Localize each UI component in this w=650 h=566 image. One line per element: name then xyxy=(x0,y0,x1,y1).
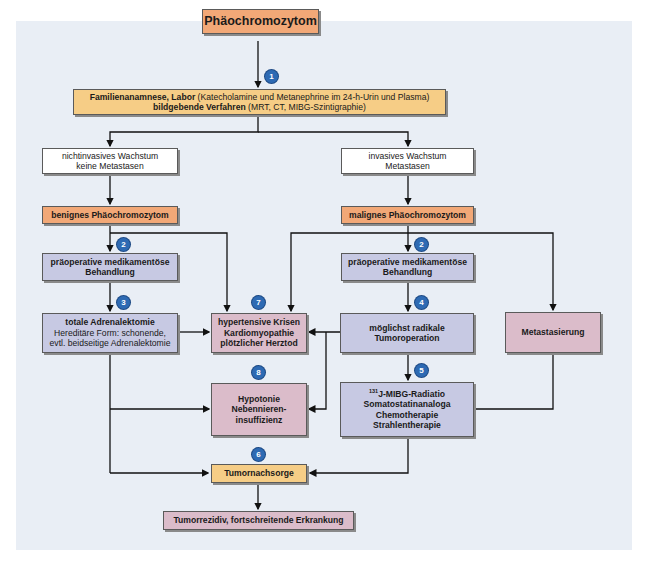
hypotonia-line2: Nebennieren- xyxy=(232,404,287,415)
preop-left-line1: präoperative medikamentöse xyxy=(51,257,170,268)
step-badge-5: 5 xyxy=(415,364,428,377)
node-malignant: malignes Phäochromozytom xyxy=(341,206,474,224)
tumor-op-line2: Tumoroperation xyxy=(374,333,439,344)
node-invasive: invasives Wachstum Metastasen xyxy=(341,148,474,174)
noninvasive-line1: nichtinvasives Wachstum xyxy=(62,151,158,162)
step-badge-3: 3 xyxy=(117,296,130,309)
node-benign: benignes Phäochromozytom xyxy=(42,206,178,224)
diagnostics-rest-2: (MRT, CT, MIBG-Szintigraphie) xyxy=(246,102,366,112)
adrenalectomy-line1: totale Adrenalektomie xyxy=(65,317,154,328)
invasive-line1: invasives Wachstum xyxy=(368,151,446,162)
malignant-label: malignes Phäochromozytom xyxy=(349,210,466,221)
node-preop-right: präoperative medikamentöse Behandlung xyxy=(341,253,474,281)
tumor-op-line1: möglichst radikale xyxy=(369,323,444,334)
preop-right-line2: Behandlung xyxy=(383,267,433,278)
title-text: Phäochromozytom xyxy=(204,16,317,27)
step-badge-2-left: 2 xyxy=(117,238,130,251)
node-diagnostics: Familienanamnese, Labor (Katecholamine u… xyxy=(73,89,446,115)
preop-left-line2: Behandlung xyxy=(85,267,135,278)
invasive-line2: Metastasen xyxy=(385,161,429,172)
therapy-line2: Somatostatinanaloga xyxy=(364,399,451,410)
hypotonia-line1: Hypotonie xyxy=(238,394,280,405)
node-metastasis: Metastasierung xyxy=(505,312,601,353)
crises-line1: hypertensive Krisen xyxy=(218,317,300,328)
step-badge-7: 7 xyxy=(252,296,265,309)
step-badge-1: 1 xyxy=(265,70,278,83)
node-recurrence: Tumorrezidiv, fortschreitende Erkrankung xyxy=(163,511,354,530)
node-preop-left: präoperative medikamentöse Behandlung xyxy=(42,253,178,281)
diagnostics-rest-1: (Katecholamine und Metanephrine im 24-h-… xyxy=(195,92,429,102)
node-noninvasive: nichtinvasives Wachstum keine Metastasen xyxy=(42,148,178,174)
node-adrenalectomy: totale Adrenalektomie Hereditäre Form: s… xyxy=(42,313,178,353)
hypotonia-line3: insuffizienz xyxy=(236,415,283,426)
metastasis-label: Metastasierung xyxy=(521,327,584,338)
therapy-sup: 131 xyxy=(369,388,378,394)
step-badge-6: 6 xyxy=(252,448,265,461)
crises-line2: Kardiomyopathie xyxy=(224,328,294,339)
step-badge-4: 4 xyxy=(415,296,428,309)
preop-right-line1: präoperative medikamentöse xyxy=(348,257,467,268)
diagnostics-bold-2: bildgebende Verfahren xyxy=(153,102,246,112)
adrenalectomy-line3: evtl. beidseitige Adrenalektomie xyxy=(50,338,171,349)
node-followup: Tumornachsorge xyxy=(211,464,307,483)
therapy-line4: Strahlentherapie xyxy=(373,420,441,431)
node-hypotonia: Hypotonie Nebennieren- insuffizienz xyxy=(211,383,307,436)
connector-lines xyxy=(0,0,650,566)
diagnostics-bold-1: Familienanamnese, Labor xyxy=(90,92,196,102)
recurrence-label: Tumorrezidiv, fortschreitende Erkrankung xyxy=(173,515,343,526)
step-badge-2-right: 2 xyxy=(415,238,428,251)
followup-label: Tumornachsorge xyxy=(224,468,294,479)
noninvasive-line2: keine Metastasen xyxy=(76,161,143,172)
node-therapy: 131J-MIBG-Radiatio Somatostatinanaloga C… xyxy=(340,382,474,437)
crises-line3: plötzlicher Herztod xyxy=(220,338,297,349)
benign-label: benignes Phäochromozytom xyxy=(51,210,168,221)
step-badge-8: 8 xyxy=(252,366,265,379)
therapy-line1: J-MIBG-Radiatio xyxy=(378,389,445,399)
adrenalectomy-line2: Hereditäre Form: schonende, xyxy=(54,328,166,339)
node-crises: hypertensive Krisen Kardiomyopathie plöt… xyxy=(211,313,307,353)
node-title: Phäochromozytom xyxy=(202,9,319,34)
node-tumor-op: möglichst radikale Tumoroperation xyxy=(340,313,474,353)
therapy-line3: Chemotherapie xyxy=(376,410,439,421)
